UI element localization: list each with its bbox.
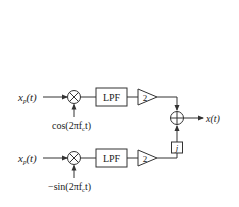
top-mixer-icon <box>68 91 81 104</box>
j-multiplier-label: j <box>175 143 179 153</box>
bottom-gain-label: 2 <box>143 154 148 164</box>
bottom-gain-triangle-icon <box>138 150 157 166</box>
summer-icon <box>171 112 184 125</box>
top-gain-to-sum <box>157 97 177 110</box>
bottom-input-label: xp(t) <box>17 152 37 166</box>
top-input-label: xp(t) <box>17 91 37 105</box>
bottom-mixer-icon <box>68 152 81 165</box>
top-gain-triangle-icon <box>138 89 157 105</box>
bottom-path: xp(t) −sin(2πfct) LPF 2 j <box>17 126 183 193</box>
top-lpf-label: LPF <box>103 92 121 103</box>
demodulator-block-diagram: xp(t) cos(2πfct) LPF 2 x(t) xp(t) <box>0 0 239 207</box>
bottom-lpf-label: LPF <box>103 153 121 164</box>
bottom-gain-to-j <box>157 153 177 158</box>
top-path: xp(t) cos(2πfct) LPF 2 <box>17 88 177 132</box>
bottom-carrier-label: −sin(2πfct) <box>48 181 91 193</box>
output-label: x(t) <box>205 113 221 125</box>
top-gain-label: 2 <box>143 93 148 103</box>
top-carrier-label: cos(2πfct) <box>52 120 91 132</box>
